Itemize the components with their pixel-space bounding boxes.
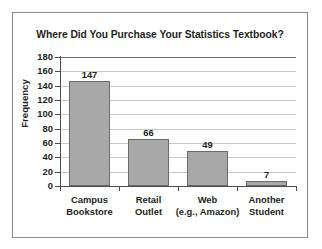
x-category-label-line: Student [222,206,312,218]
y-tick-label: 100 [27,109,53,118]
y-tick-mark [55,157,60,158]
x-category-label-line: Another [222,194,312,206]
bar [69,81,110,186]
chart-title: Where Did You Purchase Your Statistics T… [14,29,306,40]
y-tick-mark [55,129,60,130]
y-tick-label: 120 [27,95,53,104]
bar-chart-figure: Where Did You Purchase Your Statistics T… [0,0,322,249]
y-tick-label: 80 [27,124,53,133]
bar-value-label: 49 [178,139,238,150]
x-tick-mark [296,186,297,191]
x-tick-mark [119,186,120,191]
y-tick-label: 180 [27,52,53,61]
bar-value-label: 147 [60,69,120,80]
x-category-label: AnotherStudent [222,194,312,217]
bar [128,139,169,186]
y-tick-label: 160 [27,66,53,75]
bar-value-label: 7 [237,169,297,180]
y-tick-mark [55,114,60,115]
y-tick-label: 140 [27,81,53,90]
x-tick-mark [60,186,61,191]
x-tick-mark [237,186,238,191]
y-tick-mark [55,143,60,144]
y-tick-mark [55,172,60,173]
y-tick-label: 60 [27,138,53,147]
y-tick-label: 20 [27,167,53,176]
y-tick-label: 0 [27,181,53,190]
x-axis-line [55,186,297,187]
x-tick-mark [178,186,179,191]
y-tick-mark [55,86,60,87]
gridline [60,57,296,58]
y-tick-mark [55,57,60,58]
bar-value-label: 66 [119,127,179,138]
y-tick-mark [55,100,60,101]
y-tick-label: 40 [27,152,53,161]
bar [187,151,228,186]
